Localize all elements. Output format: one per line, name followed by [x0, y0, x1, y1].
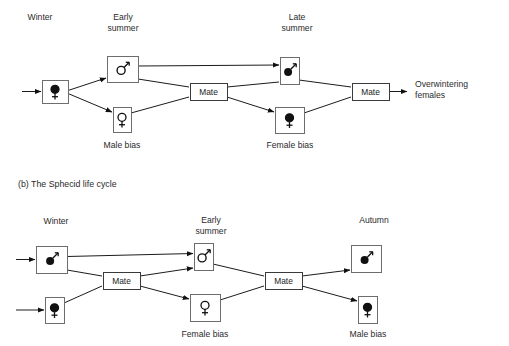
diagram-b-edge-winmale-to-earlymale — [67, 254, 193, 257]
diagram-a-mate-label-0: Mate — [199, 87, 218, 97]
diagram-a-output-line1: Overwintering — [415, 79, 468, 89]
diagram-a-edge-male-to-mate — [138, 79, 189, 87]
diagram-a-season-label-3: Late — [289, 12, 306, 22]
diagram-b-season-label-1: Early — [201, 215, 221, 225]
diagram-b-edge-winfemale-to-mate — [64, 286, 102, 303]
text-layer: WinterEarlysummerLatesummerMale biasFema… — [18, 12, 468, 339]
diagram-a-edge-latemale-to-mate2 — [299, 80, 351, 87]
diagram-a-edge-femalebias-to-mate2 — [304, 97, 351, 113]
diagram-b-edge-mate2-to-malebias — [302, 286, 357, 301]
diagram-a-edge-mate-to-latemale — [227, 82, 279, 87]
early-summer-male-box — [195, 244, 214, 271]
figure-b-caption: (b) The Sphecid life cycle — [18, 179, 117, 189]
diagram-b-edge-femalebias-to-mate2 — [220, 286, 264, 300]
diagram-a-bias-label-0: Male bias — [104, 140, 141, 150]
diagram-a-bias-label-1: Female bias — [267, 140, 314, 150]
figure-root: WinterEarlysummerLatesummerMale biasFema… — [0, 0, 509, 346]
diagram-a-mate-label-1: Mate — [361, 87, 380, 97]
early-summer-male-box — [108, 57, 139, 83]
life-cycle-diagram-svg: WinterEarlysummerLatesummerMale biasFema… — [0, 0, 509, 346]
diagram-b-mate-label-1: Mate — [274, 276, 293, 286]
diagram-b-edge-winmale-to-mate — [67, 270, 102, 276]
diagram-b-bias-label-1: Male bias — [350, 329, 387, 339]
diagram-a-edge-winter-to-male — [68, 78, 106, 91]
diagram-a-edge-male-to-latemale — [138, 65, 279, 66]
diagram-b-season-label-2: summer — [195, 226, 226, 236]
diagram-b-edge-earlymale-to-mate2 — [213, 264, 264, 276]
diagram-b-edge-mate-to-earlymale — [140, 268, 193, 276]
diagram-a-edge-winter-to-femalebias — [68, 94, 112, 113]
diagram-b-bias-label-0: Female bias — [182, 329, 229, 339]
diagram-b-season-label-0: Winter — [44, 216, 69, 226]
diagram-b-season-label-3: Autumn — [359, 215, 389, 225]
diagram-a-edge-femalebias-to-mate — [131, 97, 189, 113]
diagram-b-edge-mate-to-femalebias — [140, 286, 189, 299]
diagram-a-season-label-0: Winter — [28, 12, 53, 22]
diagram-a-edge-mate-to-femalebias — [227, 97, 274, 112]
diagram-a-season-label-1: Early — [113, 12, 133, 22]
diagram-b-mate-label-0: Mate — [112, 276, 131, 286]
diagram-a-output-line2: females — [415, 90, 445, 100]
diagram-a-season-label-2: summer — [107, 23, 138, 33]
diagram-a-season-label-4: summer — [281, 23, 312, 33]
diagram-b-edge-mate2-to-autumnmale — [302, 270, 350, 276]
